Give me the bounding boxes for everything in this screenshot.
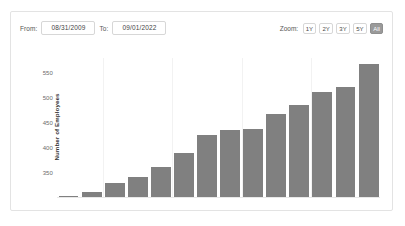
zoom-group: Zoom: 1Y 2Y 3Y 5Y All <box>280 23 383 34</box>
bar[interactable] <box>151 167 171 198</box>
chart-toolbar: From: 08/31/2009 To: 09/01/2022 Zoom: 1Y… <box>11 12 392 44</box>
from-date-input[interactable]: 08/31/2009 <box>41 21 95 35</box>
zoom-button-3y[interactable]: 3Y <box>336 23 349 34</box>
x-axis-baseline <box>57 197 380 198</box>
bar[interactable] <box>312 92 332 199</box>
zoom-button-all[interactable]: All <box>370 23 383 34</box>
to-date-input[interactable]: 09/01/2022 <box>112 21 166 35</box>
bar[interactable] <box>197 135 217 199</box>
zoom-button-2y[interactable]: 2Y <box>319 23 332 34</box>
chart-card: From: 08/31/2009 To: 09/01/2022 Zoom: 1Y… <box>10 11 393 211</box>
plot-area: 350400450500550 <box>57 58 380 198</box>
bar[interactable] <box>105 183 125 199</box>
bar[interactable] <box>243 129 263 198</box>
from-label: From: <box>20 25 37 32</box>
bar[interactable] <box>336 87 356 198</box>
bar[interactable] <box>359 64 379 198</box>
date-range-group: From: 08/31/2009 To: 09/01/2022 <box>20 21 166 35</box>
bar-chart: Number of Employees 350400450500550 <box>11 44 392 210</box>
zoom-button-5y[interactable]: 5Y <box>353 23 366 34</box>
bar-series <box>57 58 380 198</box>
to-label: To: <box>99 25 108 32</box>
bar[interactable] <box>220 130 240 198</box>
y-axis-tick-label: 400 <box>43 145 53 151</box>
bar[interactable] <box>174 153 194 198</box>
zoom-label: Zoom: <box>280 25 298 32</box>
y-axis-tick-label: 450 <box>43 120 53 126</box>
zoom-button-1y[interactable]: 1Y <box>303 23 316 34</box>
y-axis-tick-label: 350 <box>43 170 53 176</box>
bar[interactable] <box>289 105 309 199</box>
y-axis-tick-label: 550 <box>43 70 53 76</box>
bar[interactable] <box>128 177 148 198</box>
y-axis-tick-label: 500 <box>43 95 53 101</box>
bar[interactable] <box>266 114 286 198</box>
